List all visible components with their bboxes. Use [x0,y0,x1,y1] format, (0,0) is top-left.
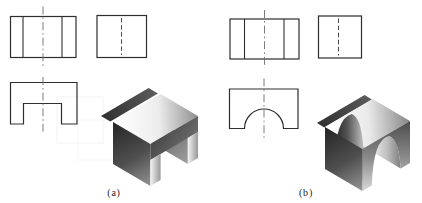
technical-drawing-figure: (a)(b) [0,0,422,203]
label-a: (a) [107,187,121,199]
figure-canvas: (a)(b) [0,0,422,203]
label-b: (b) [299,187,313,199]
